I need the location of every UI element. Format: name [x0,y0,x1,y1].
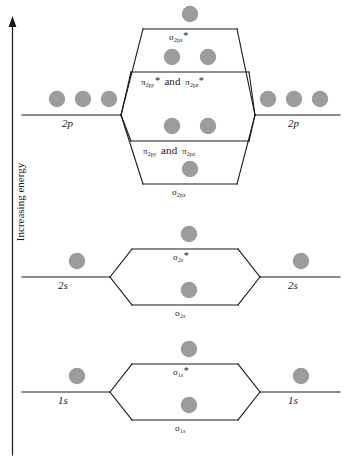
electron-circle [182,6,198,22]
mo-diagram-canvas [0,0,347,459]
electron-circle [312,91,328,107]
electron-circle [293,253,309,269]
electrons-ao-1s-right [293,368,309,384]
electron-circle [164,49,180,65]
electron-circle [260,91,276,107]
electron-circle [200,118,216,134]
electron-circle [69,253,85,269]
mo-label-sigma-2s-bonding: σ2s [175,309,185,318]
electrons-ao-2s-left [69,253,85,269]
electrons-mo-pi-2p-antibonding [164,49,216,65]
mo-label-sigma-1s-antibonding: σ1s* [173,367,189,377]
electrons-ao-2p-right [260,91,328,107]
ao-label-1s-right: 1s [288,395,298,406]
electrons-mo-pi-2p-bonding [164,118,216,134]
ao-label-2p-left: 2p [62,118,73,129]
electron-circle [181,226,197,242]
mo-label-sigma-2s-antibonding: σ2s* [173,252,189,262]
electron-circle [181,282,197,298]
electron-circle [181,397,197,413]
electrons-mo-sigma-2px-bonding [182,161,198,177]
electron-circle [164,118,180,134]
ao-label-2p-right: 2p [288,118,299,129]
ao-label-2s-right: 2s [288,280,298,291]
electron-circle [69,368,85,384]
electrons-ao-2p-left [49,91,117,107]
energy-axis-label: Increasing energy [14,147,26,257]
mo-label-sigma-1s-bonding: σ1s [175,424,185,433]
electrons-ao-1s-left [69,368,85,384]
mo-label-pi-2p-antibonding: π2py* and π2pz* [141,76,204,87]
electrons-mo-sigma-1s-bonding [181,397,197,413]
electrons-mo-sigma-2s-bonding [181,282,197,298]
arrow-up-icon [9,16,17,27]
electrons-mo-sigma-1s-antibonding [181,341,197,357]
mo-diagram-figure: Increasing energy 2p 2p 2s 2s 1s 1s σ2px… [0,0,347,459]
electrons-mo-sigma-2px-antibonding [182,6,198,22]
electron-circle [182,161,198,177]
electrons-mo-sigma-2s-antibonding [181,226,197,242]
electron-circle [75,91,91,107]
electron-circle [181,341,197,357]
mo-label-sigma-2px-antibonding: σ2px* [169,32,188,42]
electrons-ao-2s-right [293,253,309,269]
ao-label-2s-left: 2s [58,280,68,291]
electron-circle [293,368,309,384]
mo-label-sigma-2px-bonding: σ2px [172,188,186,197]
electron-circle [101,91,117,107]
mo-label-pi-2p-bonding: π2py and π2pz [143,145,195,156]
electron-circle [49,91,65,107]
electron-circle [286,91,302,107]
energy-axis-text: Increasing energy [14,163,26,241]
ao-label-1s-left: 1s [58,395,68,406]
electron-circle [200,49,216,65]
